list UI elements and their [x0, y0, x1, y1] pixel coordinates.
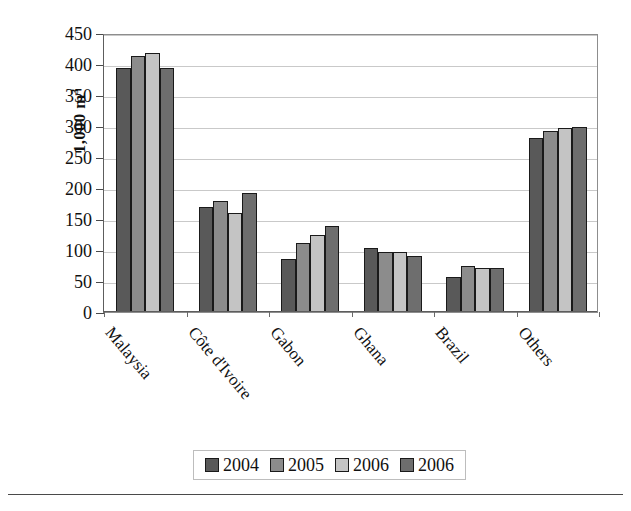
- x-tick-mark: [599, 312, 600, 317]
- y-tick-label: 350: [36, 87, 92, 105]
- bar-group: [517, 35, 600, 312]
- bar: [281, 259, 296, 312]
- bar: [160, 68, 175, 312]
- bar: [543, 131, 558, 312]
- bar: [393, 252, 408, 312]
- plot-area: [103, 34, 598, 313]
- bar-group: [434, 35, 517, 312]
- x-tick-mark: [269, 312, 270, 317]
- bar-group: [187, 35, 270, 312]
- bar: [378, 252, 393, 312]
- bar: [558, 128, 573, 312]
- bar: [145, 53, 160, 312]
- y-tick-label: 150: [36, 211, 92, 229]
- legend-swatch-icon: [335, 458, 349, 472]
- y-tick-label: 100: [36, 242, 92, 260]
- bottom-divider-rule: [8, 494, 623, 495]
- bar: [296, 243, 311, 312]
- legend-label: 2004: [223, 456, 259, 474]
- legend-label: 2006: [418, 456, 454, 474]
- bar: [407, 256, 422, 312]
- legend-item[interactable]: 2006: [335, 456, 389, 474]
- bar: [242, 193, 257, 312]
- y-tick-label: 400: [36, 56, 92, 74]
- y-tick-label: 0: [36, 304, 92, 322]
- legend-item[interactable]: 2004: [205, 456, 259, 474]
- x-tick-mark: [517, 312, 518, 317]
- bar: [446, 277, 461, 312]
- bar: [199, 207, 214, 312]
- bar: [213, 201, 228, 312]
- y-tick-label: 450: [36, 25, 92, 43]
- bar-groups: [104, 35, 597, 312]
- bar-group: [269, 35, 352, 312]
- chart-legend: 2004200520062006: [193, 450, 466, 480]
- legend-item[interactable]: 2006: [400, 456, 454, 474]
- y-tick-label: 200: [36, 180, 92, 198]
- bar-group: [104, 35, 187, 312]
- legend-swatch-icon: [270, 458, 284, 472]
- bar: [131, 56, 146, 312]
- bar: [116, 68, 131, 312]
- x-tick-mark: [352, 312, 353, 317]
- bar: [325, 226, 340, 312]
- bar: [228, 213, 243, 312]
- legend-swatch-icon: [205, 458, 219, 472]
- bar: [475, 268, 490, 312]
- legend-swatch-icon: [400, 458, 414, 472]
- x-tick-mark: [104, 312, 105, 317]
- bar-group: [352, 35, 435, 312]
- bar: [529, 138, 544, 312]
- y-tick-label: 50: [36, 273, 92, 291]
- bar: [310, 235, 325, 313]
- x-tick-mark: [187, 312, 188, 317]
- x-axis-line: [104, 311, 597, 312]
- legend-item[interactable]: 2005: [270, 456, 324, 474]
- y-tick-label: 250: [36, 149, 92, 167]
- bar: [572, 127, 587, 312]
- bar-chart-figure: 1,000 m3 050100150200250300350400450 Mal…: [0, 0, 631, 511]
- bar: [461, 266, 476, 313]
- legend-label: 2006: [353, 456, 389, 474]
- x-tick-mark: [434, 312, 435, 317]
- bar: [364, 248, 379, 312]
- bar: [490, 268, 505, 312]
- legend-label: 2005: [288, 456, 324, 474]
- y-tick-mark: [96, 313, 104, 314]
- y-tick-label: 300: [36, 118, 92, 136]
